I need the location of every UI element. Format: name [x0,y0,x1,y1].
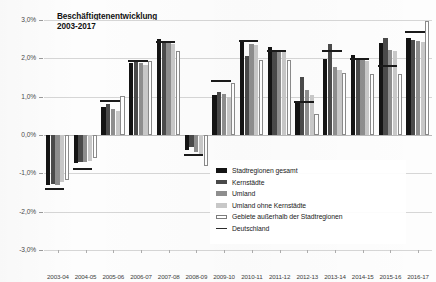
y-axis-tick-mark [39,212,43,213]
bar [106,104,110,135]
bar [300,77,304,135]
bar [282,51,286,135]
legend-swatch-icon [216,180,227,185]
bar [189,135,193,147]
deutschland-reference-line [350,58,369,60]
x-axis-tick-mark [335,250,336,253]
gridline [44,250,432,251]
x-axis-tick-label: 2012-13 [293,273,321,280]
bar [88,135,92,161]
bar [120,96,124,135]
bar [365,61,369,135]
bar [157,39,161,135]
bar [143,65,147,135]
legend-swatch-icon [216,191,227,196]
bar [328,44,332,135]
bar [222,94,226,135]
x-axis-tick-mark [169,250,170,253]
deutschland-reference-line [294,101,313,103]
y-axis-tick-label: 2,0% [0,54,36,61]
x-axis-tick-mark [390,250,391,253]
legend-item[interactable]: Stadtregionen gesamt [216,166,342,175]
bar [217,92,221,135]
bar [171,44,175,135]
bar [383,38,387,135]
deutschland-reference-line [45,188,64,190]
bar [212,95,216,135]
bar [342,73,346,135]
bar [295,101,299,135]
bar-group [404,20,432,250]
bar-group [155,20,183,250]
legend-item[interactable]: Umland [216,189,342,198]
legend-swatch-icon [216,215,227,220]
x-axis-tick-label: 2014-15 [349,273,377,280]
bar [406,38,410,135]
legend-swatch-icon [216,203,227,208]
bar [176,51,180,135]
deutschland-reference-line [73,168,92,170]
x-axis-tick-label: 2006-07 [127,273,155,280]
legend-item-label: Gebiete außerhalb der Stadtregionen [232,213,342,220]
bar [78,135,82,162]
y-axis-tick-label: 3,0% [0,16,36,23]
x-axis-tick-label: 2016-17 [404,273,432,280]
bar [287,60,291,135]
x-axis-tick-mark [113,250,114,253]
y-axis-tick-mark [39,135,43,136]
deutschland-reference-line [322,50,341,52]
legend-item-label: Stadtregionen gesamt [232,167,298,174]
x-axis-tick-mark [363,250,364,253]
bar [411,40,415,135]
deutschland-reference-line [211,80,230,82]
bar [101,107,105,135]
x-axis-tick-mark [252,250,253,253]
bar [204,135,208,166]
legend-item-label: Umland [232,190,255,197]
bar [379,43,383,135]
bar-group [99,20,127,250]
bar [134,62,138,135]
bar [51,135,55,184]
bar [240,42,244,135]
deutschland-reference-line [267,50,286,52]
chart-container: Beschäftigtenentwicklung 2003-2017 3,0%2… [0,0,436,282]
x-axis-tick-label: 2011-12 [266,273,294,280]
y-axis-tick-mark [39,250,43,251]
bar [388,50,392,135]
legend-item[interactable]: Kernstädte [216,178,342,187]
x-axis-tick-label: 2007-08 [155,273,183,280]
legend-item[interactable]: Deutschland [216,224,342,233]
bar [148,61,152,135]
x-axis-tick-label: 2004-05 [72,273,100,280]
legend-swatch-icon [216,226,227,231]
bar [393,51,397,135]
y-axis-tick-label: -3,0% [0,246,36,253]
x-axis-tick-label: 2003-04 [44,273,72,280]
x-axis-tick-label: 2015-16 [376,273,404,280]
y-axis-tick-label: 0,0% [0,131,36,138]
bar [194,135,198,152]
y-axis-tick-mark [39,173,43,174]
bar [55,135,59,185]
bar-group [183,20,211,250]
x-axis-tick-label: 2013-14 [321,273,349,280]
legend-item[interactable]: Gebiete außerhalb der Stadtregionen [216,212,342,221]
bar [360,59,364,135]
y-axis-tick-mark [39,97,43,98]
bar [259,60,263,135]
bar-group [72,20,100,250]
bar [254,45,258,135]
x-axis-tick-mark [280,250,281,253]
x-axis-tick-mark [141,250,142,253]
deutschland-reference-line [100,100,119,102]
deutschland-reference-line [184,154,203,156]
bar [139,63,143,135]
bar [272,51,276,135]
legend-item[interactable]: Umland ohne Kernstädte [216,201,342,210]
x-axis-tick-label: 2009-10 [210,273,238,280]
x-axis-tick-mark [418,250,419,253]
bar [351,55,355,136]
y-axis-tick-label: -1,0% [0,169,36,176]
bar [83,135,87,162]
